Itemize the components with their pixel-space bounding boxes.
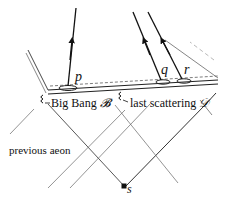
label-q: q (161, 63, 168, 77)
previous-aeon-label: previous aeon (9, 145, 70, 156)
big-bang-text: Big Bang (51, 96, 97, 110)
last-scattering-symbol: 𝒟 (199, 96, 209, 110)
last-scattering-label: last scattering 𝒟 (130, 97, 209, 109)
last-scattering-text: last scattering (130, 96, 196, 110)
big-bang-brace (41, 95, 43, 103)
label-r: r (184, 63, 189, 77)
event-s-marker (122, 184, 127, 189)
last-scattering-brace (119, 92, 121, 100)
worldline-q (133, 12, 161, 80)
big-bang-label: Big Bang 𝓑 (51, 97, 111, 109)
label-p: p (75, 70, 82, 84)
big-bang-symbol: 𝓑 (100, 96, 111, 110)
label-s: s (127, 183, 132, 195)
